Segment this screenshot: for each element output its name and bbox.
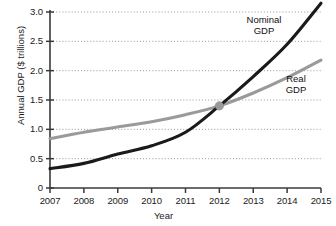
series-label-nominal-gdp: Nominal GDP: [236, 14, 292, 36]
y-axis-title: Annual GDP ($ trillions): [15, 11, 26, 141]
x-tick-label: 2007: [33, 195, 67, 206]
x-tick-label: 2015: [304, 195, 336, 206]
x-tick-label: 2008: [67, 195, 101, 206]
series-label-real-gdp: Real GDP: [274, 73, 318, 95]
x-tick-label: 2013: [236, 195, 270, 206]
series-line-real-gdp: [50, 60, 321, 139]
y-tick-label: 0.5: [17, 153, 43, 164]
x-tick-label: 2014: [270, 195, 304, 206]
y-tick-label: 0: [17, 182, 43, 193]
x-axis-title: Year: [0, 210, 327, 221]
x-tick-label: 2010: [135, 195, 169, 206]
x-tick-label: 2012: [202, 195, 236, 206]
crossover-marker-icon: [215, 102, 223, 110]
x-tick-label: 2011: [169, 195, 203, 206]
x-tick-label: 2009: [101, 195, 135, 206]
